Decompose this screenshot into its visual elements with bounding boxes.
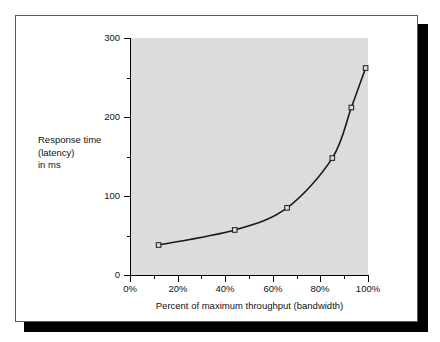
figure-root: 0100200300 0%20%40%60%80%100% Response t… <box>0 0 440 342</box>
series-layer <box>0 0 440 342</box>
series-data-point <box>285 206 290 211</box>
series-data-point <box>156 243 161 248</box>
series-data-point <box>349 105 354 110</box>
series-data-point <box>232 228 237 233</box>
series-data-point <box>330 156 335 161</box>
series-markers-group <box>156 66 368 248</box>
chart-canvas: 0100200300 0%20%40%60%80%100% Response t… <box>0 0 440 342</box>
series-data-point <box>363 66 368 71</box>
